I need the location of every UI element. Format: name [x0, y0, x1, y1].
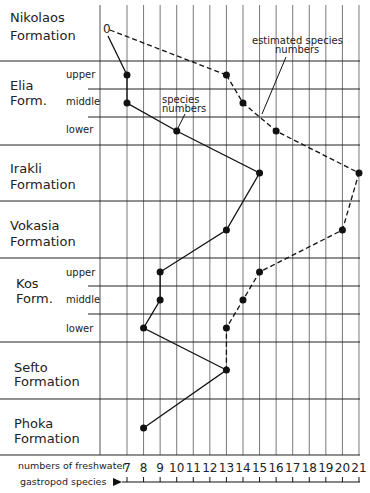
svg-text:8: 8	[140, 461, 148, 475]
svg-text:16: 16	[268, 461, 283, 475]
vokasia-2: Formation	[10, 234, 76, 249]
svg-text:15: 15	[252, 461, 267, 475]
svg-text:14: 14	[235, 461, 250, 475]
svg-text:17: 17	[285, 461, 300, 475]
x-axis-label-1: numbers of freshwater	[18, 460, 126, 471]
kos-lower: lower	[66, 323, 94, 334]
species-annotation-2: numbers	[162, 103, 206, 114]
svg-text:19: 19	[318, 461, 333, 475]
svg-text:21: 21	[351, 461, 366, 475]
nikolaos-1: Nikolaos	[10, 10, 65, 25]
svg-text:11: 11	[186, 461, 201, 475]
vokasia-1: Vokasia	[10, 218, 59, 233]
sefto-2: Formation	[14, 374, 80, 389]
x-axis-label-2: gastropod species	[20, 476, 106, 487]
kos-upper: upper	[66, 267, 96, 278]
chart: 789101112131415161718192021 Nikolaos For…	[0, 0, 370, 493]
irakli-2: Formation	[10, 177, 76, 192]
elia-2: Form.	[10, 93, 47, 108]
kos-1: Kos	[16, 276, 39, 291]
svg-text:9: 9	[156, 461, 164, 475]
svg-text:10: 10	[169, 461, 184, 475]
svg-text:13: 13	[219, 461, 234, 475]
sefto-1: Sefto	[14, 360, 48, 375]
elia-1: Elia	[10, 78, 33, 93]
estimated-annotation-2: numbers	[275, 44, 319, 55]
irakli-1: Irakli	[10, 161, 42, 176]
svg-text:18: 18	[302, 461, 317, 475]
svg-text:20: 20	[335, 461, 350, 475]
axis-arrow-icon	[113, 478, 122, 486]
zero-label: 0	[103, 22, 111, 36]
phoka-2: Formation	[14, 431, 80, 446]
nikolaos-2: Formation	[10, 28, 76, 43]
phoka-1: Phoka	[14, 416, 53, 431]
kos-2: Form.	[16, 291, 53, 306]
svg-text:12: 12	[202, 461, 217, 475]
elia-middle: middle	[66, 96, 100, 107]
kos-middle: middle	[66, 294, 100, 305]
elia-upper: upper	[66, 69, 96, 80]
elia-lower: lower	[66, 124, 94, 135]
